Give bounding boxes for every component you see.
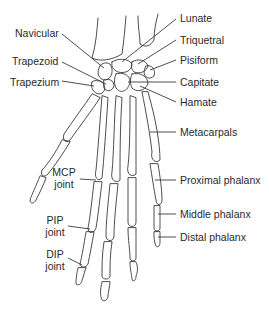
label-lunate: Lunate xyxy=(180,12,212,24)
index-proximal-phalanx xyxy=(88,182,102,233)
little-middle-phalanx xyxy=(154,206,160,231)
label-metacarpals: Metacarpals xyxy=(180,126,237,138)
label-dip-joint-line1: DIP xyxy=(40,248,70,260)
index-metacarpal xyxy=(95,96,108,180)
hand-bones-diagram: Navicular Trapezoid Trapezium MCP joint … xyxy=(0,0,269,313)
leader-pip-joint xyxy=(68,226,90,229)
ring-proximal-phalanx xyxy=(128,178,136,227)
label-navicular: Navicular xyxy=(15,27,59,39)
middle-distal-phalanx xyxy=(101,282,111,301)
middle-middle-phalanx xyxy=(102,242,112,279)
label-trapezoid: Trapezoid xyxy=(12,55,58,67)
leader-trapezium xyxy=(62,81,94,86)
leader-lunate xyxy=(122,19,176,62)
little-proximal-phalanx xyxy=(150,164,162,205)
middle-proximal-phalanx xyxy=(106,184,118,241)
radius-bone xyxy=(92,16,126,60)
label-hamate: Hamate xyxy=(180,96,217,108)
little-distal-phalanx xyxy=(154,232,160,247)
leader-pisiform xyxy=(150,60,176,70)
ring-distal-phalanx xyxy=(130,262,138,281)
leader-trapezoid xyxy=(62,62,106,84)
ring-metacarpal xyxy=(128,96,136,176)
leader-triquetral xyxy=(138,40,176,64)
middle-metacarpal xyxy=(112,96,122,182)
leader-hamate xyxy=(140,86,176,102)
label-capitate: Capitate xyxy=(180,76,219,88)
capitate-bone xyxy=(115,73,131,91)
trapezoid-bone xyxy=(104,79,114,91)
label-pip-joint-line2: joint xyxy=(40,226,70,238)
label-pisiform: Pisiform xyxy=(180,54,218,66)
label-proximal-phalanx: Proximal phalanx xyxy=(180,174,261,186)
leader-mcp-joint xyxy=(80,179,96,180)
label-distal-phalanx: Distal phalanx xyxy=(180,231,246,243)
label-mcp-joint-line1: MCP xyxy=(48,166,80,178)
label-mcp-joint-line2: joint xyxy=(48,178,80,190)
label-middle-phalanx: Middle phalanx xyxy=(180,208,251,220)
label-dip-joint-line2: joint xyxy=(40,260,70,272)
label-triquetral: Triquetral xyxy=(180,34,224,46)
pisiform-bone xyxy=(144,66,155,78)
little-metacarpal xyxy=(142,92,160,162)
lunate-bone xyxy=(112,59,132,72)
index-distal-phalanx xyxy=(76,268,86,285)
thumb-metacarpal xyxy=(63,94,100,142)
leader-navicular xyxy=(62,34,104,68)
label-pip-joint-line1: PIP xyxy=(40,214,70,226)
thumb-distal-phalanx xyxy=(30,176,46,203)
leader-dip-joint xyxy=(68,258,82,265)
label-trapezium: Trapezium xyxy=(10,76,59,88)
navicular-bone xyxy=(98,63,112,80)
index-middle-phalanx xyxy=(80,232,94,267)
ring-middle-phalanx xyxy=(128,228,136,261)
